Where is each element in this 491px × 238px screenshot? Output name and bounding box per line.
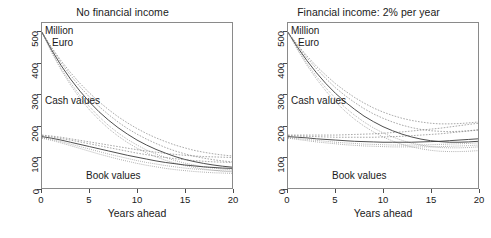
units-line-2: Euro <box>45 37 73 49</box>
x-tick-label: 10 <box>378 195 389 205</box>
book-values-annotation: Book values <box>86 170 140 182</box>
x-tick-label: 20 <box>228 195 239 205</box>
y-axis: 0100200300400500 <box>246 22 287 189</box>
plot-area: MillionEuro Cash values Book values <box>287 22 479 189</box>
y-tick-label: 100 <box>30 157 40 173</box>
x-axis-title: Years ahead <box>287 207 479 219</box>
y-tick-label: 100 <box>276 157 286 173</box>
units-line-1: Million <box>45 25 73 36</box>
x-tick-mark <box>89 189 90 193</box>
y-tick-label: 500 <box>276 31 286 47</box>
x-tick-label: 15 <box>180 195 191 205</box>
y-tick-label: 200 <box>30 126 40 142</box>
x-axis-title: Years ahead <box>41 207 233 219</box>
x-tick-mark <box>431 189 432 193</box>
x-tick-label: 10 <box>132 195 143 205</box>
curve-book-values-book-band-lo <box>42 138 232 173</box>
curve-book-values-book-band-hi <box>288 123 478 135</box>
cash-values-annotation: Cash values <box>45 95 100 107</box>
curve-cash-values-cash-band-lo <box>288 32 478 151</box>
curve-book-values-book-central <box>288 137 478 143</box>
x-tick-label: 0 <box>38 195 43 205</box>
x-tick-label: 0 <box>284 195 289 205</box>
y-tick-label: 300 <box>30 94 40 110</box>
units-line-2: Euro <box>291 37 319 49</box>
y-tick-label: 400 <box>276 63 286 79</box>
x-tick-label: 20 <box>474 195 485 205</box>
y-axis: 0100200300400500 <box>0 22 41 189</box>
panel-financial-income-2pct: Financial income: 2% per year 0100200300… <box>246 0 491 238</box>
y-tick-label: 300 <box>276 94 286 110</box>
panel-title: No financial income <box>0 6 245 18</box>
plot-area: MillionEuro Cash values Book values <box>41 22 233 189</box>
curve-cash-values-cash-central <box>288 32 478 142</box>
cash-values-annotation: Cash values <box>291 95 346 107</box>
curve-book-values-book-upper <box>288 130 478 137</box>
y-tick-label: 200 <box>276 126 286 142</box>
figure-two-panel-chart: No financial income 0100200300400500 Mil… <box>0 0 491 238</box>
y-tick-label: 400 <box>30 63 40 79</box>
x-tick-mark <box>185 189 186 193</box>
panel-title: Financial income: 2% per year <box>246 6 491 18</box>
units-annotation: MillionEuro <box>291 25 319 48</box>
x-tick-mark <box>41 189 42 193</box>
x-tick-label: 5 <box>86 195 91 205</box>
x-tick-mark <box>287 189 288 193</box>
x-tick-mark <box>137 189 138 193</box>
y-tick-label: 500 <box>30 31 40 47</box>
x-tick-mark <box>383 189 384 193</box>
units-line-1: Million <box>291 25 319 36</box>
x-tick-label: 15 <box>426 195 437 205</box>
x-tick-mark <box>233 189 234 193</box>
panel-no-financial-income: No financial income 0100200300400500 Mil… <box>0 0 245 238</box>
book-values-annotation: Book values <box>332 170 386 182</box>
curve-book-values-book-band-hi <box>42 135 232 157</box>
curve-cash-values-cash-lower <box>288 32 478 148</box>
x-tick-label: 5 <box>332 195 337 205</box>
x-tick-mark <box>335 189 336 193</box>
x-tick-mark <box>479 189 480 193</box>
units-annotation: MillionEuro <box>45 25 73 48</box>
